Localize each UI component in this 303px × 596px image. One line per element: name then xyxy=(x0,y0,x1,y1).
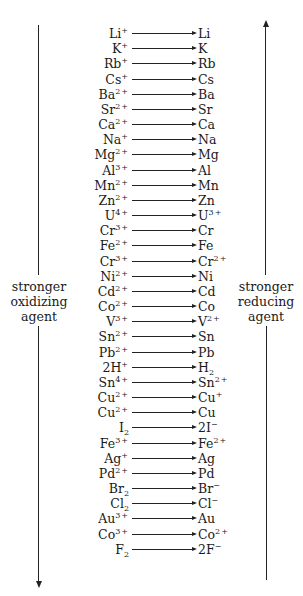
arrow-right-icon xyxy=(132,170,195,171)
reaction-row: Pb2+Pb xyxy=(0,345,303,360)
reaction-row: Cd2+Cd xyxy=(0,284,303,299)
reaction-row: 2H+H2 xyxy=(0,360,303,375)
reduced-species: 2F− xyxy=(198,542,222,557)
reaction-row: Na+Na xyxy=(0,132,303,147)
arrow-right-icon xyxy=(132,443,195,444)
arrow-right-icon xyxy=(132,63,195,64)
reduced-species: Fe xyxy=(198,238,213,253)
arrow-right-icon xyxy=(132,79,195,80)
reduced-species: Mn xyxy=(198,178,219,193)
oxidized-species: Ni2+ xyxy=(100,269,129,284)
reaction-row: Fe3+Fe2+ xyxy=(0,436,303,451)
reaction-row: Cl2Cl− xyxy=(0,496,303,511)
reduced-species: Cr2+ xyxy=(198,254,227,269)
reaction-row: Cs+Cs xyxy=(0,72,303,87)
reduced-species: Br− xyxy=(198,481,221,496)
oxidized-species: Cr3+ xyxy=(100,223,129,238)
reaction-row: F22F− xyxy=(0,542,303,557)
reaction-row: V3+V2+ xyxy=(0,314,303,329)
reduced-species: Co xyxy=(198,299,215,314)
arrow-right-icon xyxy=(132,185,195,186)
reduced-species: Rb xyxy=(198,56,215,71)
reduced-species: Cu xyxy=(198,405,216,420)
oxidized-species: Sn4+ xyxy=(99,375,129,390)
reaction-row: Rb+Rb xyxy=(0,56,303,71)
reduced-species: Cl− xyxy=(198,496,219,511)
reduced-species: Cr xyxy=(198,223,214,238)
oxidized-species: Li+ xyxy=(109,26,129,41)
arrow-right-icon xyxy=(132,200,195,201)
reaction-row: Fe2+Fe xyxy=(0,238,303,253)
arrow-right-icon xyxy=(132,261,195,262)
reaction-row: Co3+Co2+ xyxy=(0,527,303,542)
arrow-right-icon xyxy=(132,503,195,504)
reaction-row: Co2+Co xyxy=(0,299,303,314)
oxidized-species: Fe2+ xyxy=(100,238,129,253)
arrow-right-icon xyxy=(132,549,195,550)
arrow-right-icon xyxy=(132,321,195,322)
oxidized-species: Pb2+ xyxy=(99,345,129,360)
reduced-species: K xyxy=(198,41,207,56)
arrow-right-icon xyxy=(132,154,195,155)
reaction-row: Li+Li xyxy=(0,26,303,41)
arrow-right-icon xyxy=(132,473,195,474)
oxidized-species: F2 xyxy=(115,542,129,557)
reduced-species: Cs xyxy=(198,72,214,87)
arrow-right-icon xyxy=(132,33,195,34)
reduced-species: Mg xyxy=(198,147,219,162)
arrow-right-icon xyxy=(132,48,195,49)
oxidized-species: Cl2 xyxy=(110,496,129,511)
oxidized-species: K+ xyxy=(112,41,129,56)
arrow-right-icon xyxy=(132,534,195,535)
oxidized-species: Na+ xyxy=(103,132,129,147)
oxidized-species: Ca2+ xyxy=(98,117,129,132)
reaction-row: Al3+Al xyxy=(0,163,303,178)
oxidized-species: Au3+ xyxy=(98,511,129,526)
oxidized-species: Al3+ xyxy=(102,163,129,178)
oxidized-species: I2 xyxy=(119,420,129,435)
oxidized-species: Zn2+ xyxy=(98,193,129,208)
arrow-right-icon xyxy=(132,352,195,353)
oxidized-species: Cu2+ xyxy=(98,405,129,420)
arrow-right-icon xyxy=(132,397,195,398)
reduced-species: V2+ xyxy=(198,314,221,329)
reaction-row: Cu2+Cu xyxy=(0,405,303,420)
reduced-species: Cu+ xyxy=(198,390,223,405)
reduced-species: Ca xyxy=(198,117,215,132)
reduced-species: Fe2+ xyxy=(198,436,227,451)
reaction-row: Mn2+Mn xyxy=(0,178,303,193)
arrow-right-icon xyxy=(132,124,195,125)
oxidized-species: Cu2+ xyxy=(98,390,129,405)
arrow-right-icon xyxy=(132,215,195,216)
oxidized-species: Ag+ xyxy=(104,451,129,466)
oxidized-species: Rb+ xyxy=(104,56,129,71)
reduced-species: Pd xyxy=(198,466,214,481)
reduced-species: Au xyxy=(198,511,215,526)
reaction-row: Cu2+Cu+ xyxy=(0,390,303,405)
arrow-right-icon xyxy=(132,518,195,519)
arrow-right-icon xyxy=(132,488,195,489)
reaction-row: Ba2+Ba xyxy=(0,87,303,102)
reduced-species: Sr xyxy=(198,102,213,117)
arrow-right-icon xyxy=(132,382,195,383)
reduced-species: Sn2+ xyxy=(198,375,228,390)
reaction-row: Sr2+Sr xyxy=(0,102,303,117)
arrow-right-icon xyxy=(132,230,195,231)
arrow-right-icon xyxy=(132,336,195,337)
oxidized-species: Fe3+ xyxy=(100,436,129,451)
reaction-row: Cr3+Cr xyxy=(0,223,303,238)
arrow-right-icon xyxy=(132,412,195,413)
oxidized-species: U4+ xyxy=(105,208,129,223)
reduced-species: U3+ xyxy=(198,208,222,223)
reduced-species: 2I− xyxy=(198,420,219,435)
reduced-species: Ni xyxy=(198,269,213,284)
oxidized-species: Co2+ xyxy=(98,299,129,314)
reduced-species: Sn xyxy=(198,329,215,344)
oxidized-species: Mn2+ xyxy=(94,178,129,193)
oxidized-species: Mg2+ xyxy=(94,147,129,162)
reaction-row: Au3+Au xyxy=(0,511,303,526)
arrow-down-icon xyxy=(36,581,42,588)
reaction-row: U4+U3+ xyxy=(0,208,303,223)
oxidized-species: Pd2+ xyxy=(99,466,129,481)
reduced-species: Al xyxy=(198,163,211,178)
